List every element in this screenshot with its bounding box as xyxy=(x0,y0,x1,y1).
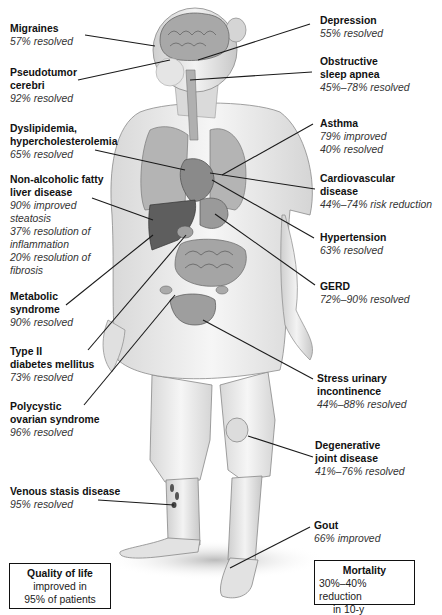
callout-detail: 65% resolved xyxy=(10,148,117,161)
callout-pcos: Polycystic ovarian syndrome 96% resolved xyxy=(10,400,100,439)
callout-pseudotumor-cerebri: Pseudotumor cerebri 92% resolved xyxy=(10,66,77,105)
callout-degenerative-joint-disease: Degenerative joint disease 41%–76% resol… xyxy=(315,439,405,478)
box-title: Mortality xyxy=(319,564,410,577)
callout-title: cerebri xyxy=(10,79,77,92)
callout-title: Metabolic xyxy=(10,290,73,303)
callout-detail: 41%–76% resolved xyxy=(315,465,405,478)
bariatric-benefits-diagram: Migraines 57% resolved Pseudotumor cereb… xyxy=(0,0,442,615)
callout-detail: inflammation xyxy=(10,238,104,251)
callout-detail: steatosis xyxy=(10,212,104,225)
callout-title: Migraines xyxy=(10,22,73,35)
callout-title: hypercholesterolemia xyxy=(10,135,117,148)
callout-title: Asthma xyxy=(320,117,386,130)
callout-detail: 96% resolved xyxy=(10,426,100,439)
callout-title: Gout xyxy=(314,519,380,532)
box-title: Quality of life xyxy=(14,567,106,580)
callout-detail: 95% resolved xyxy=(10,498,120,511)
box-detail: 95% of patients xyxy=(14,593,106,606)
callout-title: Degenerative xyxy=(315,439,405,452)
callout-title: Obstructive xyxy=(320,55,410,68)
ovary-left xyxy=(160,286,172,294)
callout-detail: 57% resolved xyxy=(10,35,73,48)
callout-detail: 90% improved xyxy=(10,199,104,212)
callout-detail: 20% resolution of xyxy=(10,251,104,264)
callout-title: incontinence xyxy=(317,385,407,398)
callout-title: syndrome xyxy=(10,303,73,316)
callout-title: Hypertension xyxy=(320,231,386,244)
callout-title: Cardiovascular xyxy=(320,172,432,185)
callout-detail: 90% resolved xyxy=(10,316,73,329)
box-detail: 30%–40% reduction xyxy=(319,577,410,603)
callout-detail: 37% resolution of xyxy=(10,225,104,238)
callout-title: disease xyxy=(320,185,432,198)
callout-detail: fibrosis xyxy=(10,264,104,277)
callout-title: joint disease xyxy=(315,452,405,465)
box-detail: in 10-y xyxy=(319,603,410,615)
callout-detail: 72%–90% resolved xyxy=(320,293,410,306)
leader-migraines xyxy=(85,35,155,46)
right-arm xyxy=(281,215,313,360)
callout-detail: 40% resolved xyxy=(320,143,386,156)
venous-mark xyxy=(170,484,174,492)
callout-title: ovarian syndrome xyxy=(10,413,100,426)
callout-title: Polycystic xyxy=(10,400,100,413)
callout-detail: 63% resolved xyxy=(320,244,386,257)
mortality-box: Mortality 30%–40% reduction in 10-y xyxy=(314,560,415,605)
callout-title: liver disease xyxy=(10,186,104,199)
callout-title: Venous stasis disease xyxy=(10,485,120,498)
callout-detail: 45%–78% resolved xyxy=(320,81,410,94)
callout-dyslipidemia: Dyslipidemia, hypercholesterolemia 65% r… xyxy=(10,122,117,161)
callout-title: sleep apnea xyxy=(320,68,410,81)
box-detail: improved in xyxy=(14,580,106,593)
callout-gerd: GERD 72%–90% resolved xyxy=(320,280,410,306)
callout-title: Type II xyxy=(10,345,94,358)
stomach xyxy=(200,198,228,228)
callout-title: Stress urinary xyxy=(317,372,407,385)
callout-cardiovascular: Cardiovascular disease 44%–74% risk redu… xyxy=(320,172,432,211)
callout-title: Dyslipidemia, xyxy=(10,122,117,135)
callout-title: Depression xyxy=(320,14,383,27)
callout-metabolic-syndrome: Metabolic syndrome 90% resolved xyxy=(10,290,73,329)
callout-detail: 44%–88% resolved xyxy=(317,398,407,411)
callout-nafld: Non-alcoholic fatty liver disease 90% im… xyxy=(10,173,104,277)
callout-type-2-diabetes: Type II diabetes mellitus 73% resolved xyxy=(10,345,94,384)
callout-depression: Depression 55% resolved xyxy=(320,14,383,40)
callout-title: Non-alcoholic fatty xyxy=(10,173,104,186)
venous-mark xyxy=(175,492,179,500)
callout-sleep-apnea: Obstructive sleep apnea 45%–78% resolved xyxy=(320,55,410,94)
callout-detail: 66% improved xyxy=(314,532,380,545)
callout-detail: 79% improved xyxy=(320,130,386,143)
callout-asthma: Asthma 79% improved 40% resolved xyxy=(320,117,386,156)
callout-detail: 44%–74% risk reduction xyxy=(320,198,432,211)
callout-detail: 55% resolved xyxy=(320,27,383,40)
callout-title: GERD xyxy=(320,280,410,293)
callout-hypertension: Hypertension 63% resolved xyxy=(320,231,386,257)
intestines xyxy=(175,239,246,286)
callout-detail: 73% resolved xyxy=(10,371,94,384)
callout-detail: 92% resolved xyxy=(10,92,77,105)
callout-title: diabetes mellitus xyxy=(10,358,94,371)
left-leg xyxy=(150,375,212,482)
callout-title: Pseudotumor xyxy=(10,66,77,79)
callout-venous-stasis: Venous stasis disease 95% resolved xyxy=(10,485,120,511)
callout-gout: Gout 66% improved xyxy=(314,519,380,545)
callout-stress-urinary-incontinence: Stress urinary incontinence 44%–88% reso… xyxy=(317,372,407,411)
ovary-right xyxy=(216,286,228,294)
knee-joint xyxy=(226,418,248,442)
quality-of-life-box: Quality of life improved in 95% of patie… xyxy=(9,563,111,609)
callout-migraines: Migraines 57% resolved xyxy=(10,22,73,48)
